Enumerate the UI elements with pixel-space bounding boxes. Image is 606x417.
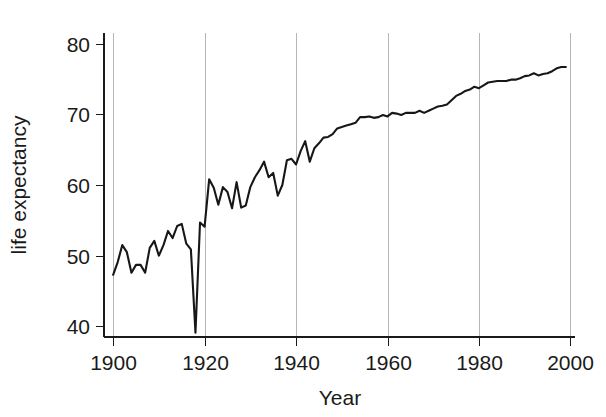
x-tick-label-2000: 2000	[547, 351, 594, 374]
y-tick-label-50: 50	[67, 245, 90, 268]
x-tick-label-1960: 1960	[365, 351, 412, 374]
x-tick-label-1920: 1920	[182, 351, 229, 374]
y-tick-label-60: 60	[67, 174, 90, 197]
y-tick-label-70: 70	[67, 103, 90, 126]
x-tick-label-1980: 1980	[456, 351, 503, 374]
x-tick-label-1940: 1940	[273, 351, 320, 374]
x-tick-label-1900: 1900	[90, 351, 137, 374]
y-tick-label-80: 80	[67, 33, 90, 56]
chart-figure: 4050607080 190019201940196019802000 Year…	[0, 0, 606, 417]
y-tick-label-40: 40	[67, 315, 90, 338]
life-expectancy-line-chart: 4050607080 190019201940196019802000 Year…	[0, 0, 606, 417]
x-axis-title: Year	[319, 386, 361, 409]
y-axis-title: life expectancy	[7, 115, 30, 254]
